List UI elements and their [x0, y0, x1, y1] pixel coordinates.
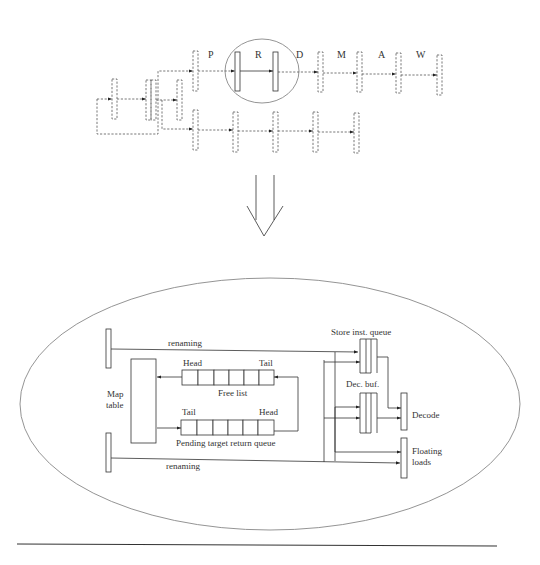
decode-label: Decode — [412, 410, 439, 420]
pending-queue-head-label: Head — [259, 407, 278, 417]
decode-latch — [401, 393, 407, 430]
map-table-label-2: table — [106, 400, 124, 410]
pipeline-diagram: P R D M A W — [97, 39, 442, 153]
stage-label-d: D — [296, 49, 303, 60]
dec-buf-label: Dec. buf. — [346, 379, 379, 389]
pending-queue-label: Pending target return queue — [176, 438, 276, 448]
map-table — [131, 359, 156, 443]
pending-queue-tail-label: Tail — [182, 407, 196, 417]
stage-label-w: W — [416, 49, 426, 60]
rename-detail: renaming renaming Map table Head Tail Fr… — [106, 327, 443, 478]
stage-label-p: P — [208, 49, 214, 60]
free-list-label: Free list — [218, 388, 248, 398]
stage-label-a: A — [378, 49, 386, 60]
transform-arrow-icon — [247, 175, 283, 236]
latch-r-in — [235, 52, 240, 91]
renaming-label-top: renaming — [168, 338, 202, 348]
floating-loads-label-2: loads — [412, 457, 431, 467]
free-list-tail-label: Tail — [259, 358, 273, 368]
stage-label-r: R — [255, 49, 262, 60]
pipeline-renaming-diagram: P R D M A W — [0, 0, 540, 565]
rename-detail-ellipse — [20, 278, 520, 530]
free-list-head-label: Head — [183, 358, 202, 368]
dec-buf — [360, 393, 377, 433]
floating-loads-label-1: Floating — [412, 446, 443, 456]
free-list — [182, 370, 274, 385]
bottom-rule — [17, 544, 497, 546]
input-latch-bottom — [106, 433, 111, 472]
map-table-label-1: Map — [107, 389, 124, 399]
latch-r-out — [273, 52, 278, 91]
floating-loads-latch — [401, 438, 407, 478]
pending-target-return-queue — [181, 420, 274, 435]
stage-label-m: M — [337, 49, 346, 60]
store-queue-label: Store inst. queue — [331, 327, 391, 337]
input-latch-top — [106, 329, 111, 368]
renaming-label-bottom: renaming — [166, 461, 200, 471]
store-inst-queue — [360, 339, 377, 373]
